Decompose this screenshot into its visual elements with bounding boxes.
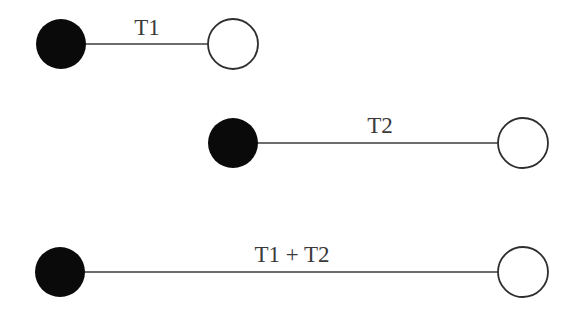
segment-t2-end-node <box>498 118 548 168</box>
segment-t1-plus-t2: T1 + T2 <box>35 242 548 297</box>
segment-t1: T1 <box>36 15 258 69</box>
segment-t1-plus-t2-label: T1 + T2 <box>254 242 329 267</box>
segment-t1-start-node <box>36 19 86 69</box>
segment-t1-end-node <box>208 19 258 69</box>
segment-t1-label: T1 <box>134 15 160 40</box>
segment-t1-plus-t2-start-node <box>35 247 85 297</box>
segment-t2-start-node <box>208 118 258 168</box>
segment-diagram: T1 T2 T1 + T2 <box>0 0 579 319</box>
segment-t2-label: T2 <box>367 113 393 138</box>
segment-t2: T2 <box>208 113 548 168</box>
segment-t1-plus-t2-end-node <box>498 247 548 297</box>
